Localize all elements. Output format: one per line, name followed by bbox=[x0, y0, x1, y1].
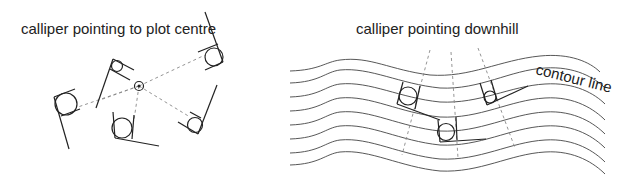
left-panel: calliper pointing to plot centre bbox=[21, 12, 223, 149]
calliper-downhill-3 bbox=[480, 80, 528, 105]
calliper-left bbox=[54, 89, 80, 149]
right-panel: calliper pointing downhill bbox=[290, 20, 614, 174]
calliper-diagram: calliper pointing to plot centre bbox=[0, 0, 624, 177]
calliper-upper bbox=[96, 59, 134, 108]
calliper-bottom bbox=[112, 112, 159, 146]
plot-centre-icon bbox=[135, 82, 144, 91]
left-panel-title: calliper pointing to plot centre bbox=[21, 20, 216, 37]
calliper-bottom-right bbox=[178, 85, 217, 134]
right-panel-title: calliper pointing downhill bbox=[356, 20, 519, 37]
calliper-downhill-2 bbox=[438, 117, 487, 142]
sight-lines bbox=[78, 55, 205, 120]
contour-line-label: contour line bbox=[534, 60, 613, 95]
